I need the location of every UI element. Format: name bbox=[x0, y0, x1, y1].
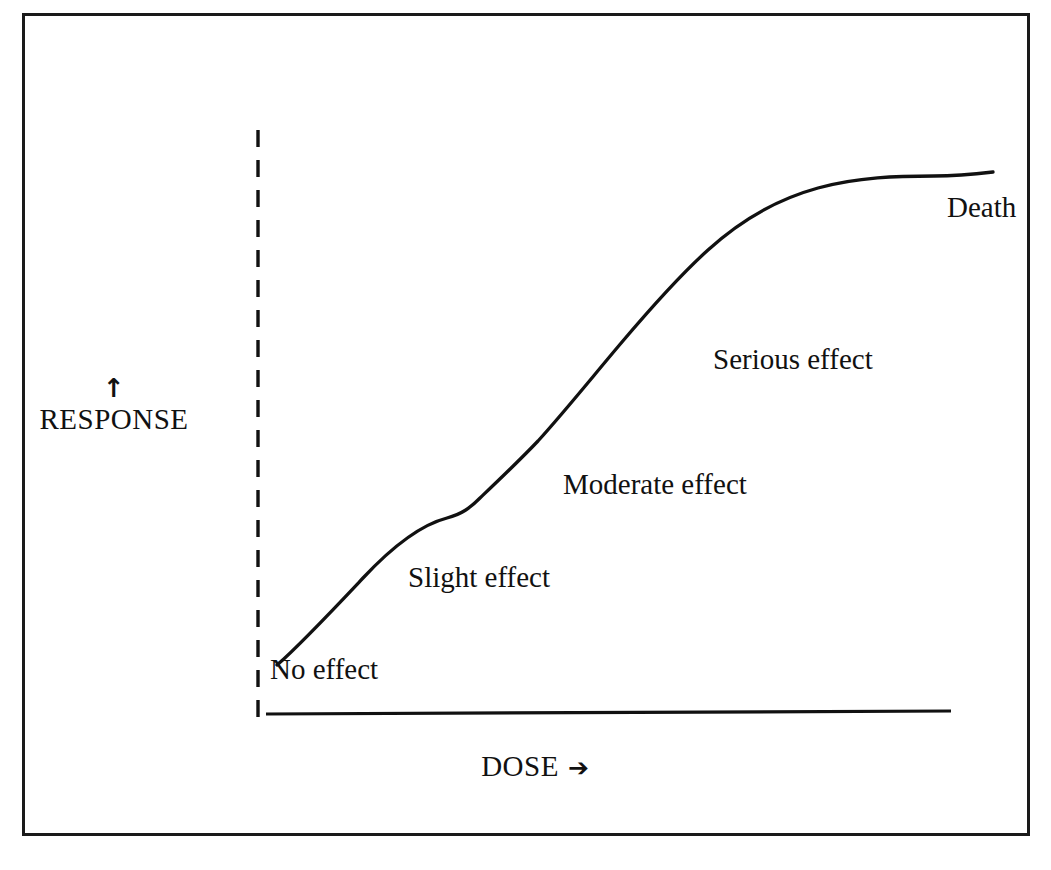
x-axis-title-group: DOSE➔ bbox=[390, 750, 680, 783]
figure-root: No effect Slight effect Moderate effect … bbox=[0, 0, 1051, 870]
up-arrow-icon: ↑ bbox=[14, 375, 214, 401]
annotation-death: Death bbox=[947, 193, 1016, 222]
annotation-slight-effect: Slight effect bbox=[408, 563, 550, 592]
x-axis-title: DOSE bbox=[481, 750, 559, 782]
annotation-serious-effect: Serious effect bbox=[713, 345, 873, 374]
annotation-moderate-effect: Moderate effect bbox=[563, 470, 747, 499]
y-axis-title-group: ↑ RESPONSE bbox=[14, 375, 214, 436]
annotation-no-effect: No effect bbox=[270, 655, 378, 684]
y-axis-title: RESPONSE bbox=[14, 403, 214, 436]
right-arrow-icon: ➔ bbox=[568, 753, 589, 782]
